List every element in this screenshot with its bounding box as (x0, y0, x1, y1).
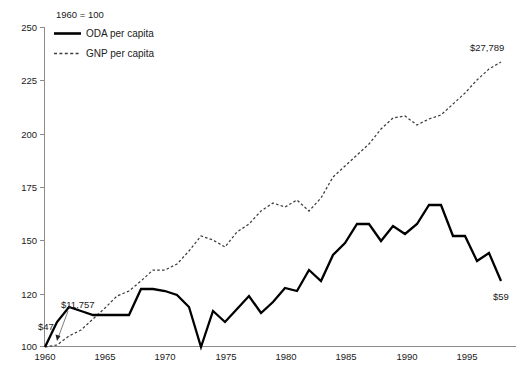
x-tick-label-1985: 1985 (335, 351, 356, 362)
x-tick-label-1980: 1980 (275, 351, 296, 362)
chart-legend: ODA per capita GNP per capita (54, 28, 155, 59)
legend-label-gnp: GNP per capita (86, 48, 155, 59)
series-line-oda (45, 205, 501, 347)
annotation-oda-end: $59 (493, 291, 509, 302)
gnp-start-leader-arrowhead (56, 335, 61, 342)
oda-end-label: $59 (493, 291, 509, 302)
gnp-start-label: $11,757 (61, 299, 95, 310)
gnp-end-label: $27,789 (470, 42, 504, 53)
line-chart: 250 225 200 175 150 120 100 1960 1965 19… (0, 0, 529, 379)
y-tick-label-200: 200 (21, 129, 37, 140)
x-tick-label-1970: 1970 (154, 351, 175, 362)
x-axis: 1960 1965 1970 1975 1980 1985 1990 1995 (34, 347, 516, 363)
x-tick-label-1965: 1965 (94, 351, 115, 362)
x-tick-label-1990: 1990 (396, 351, 417, 362)
annotation-gnp-end: $27,789 (470, 42, 504, 53)
chart-container: 250 225 200 175 150 120 100 1960 1965 19… (0, 0, 529, 379)
x-tick-label-1995: 1995 (456, 351, 477, 362)
y-tick-label-150: 150 (21, 235, 37, 246)
y-tick-label-250: 250 (21, 22, 37, 33)
y-tick-label-225: 225 (21, 75, 37, 86)
x-tick-label-1960: 1960 (34, 351, 55, 362)
annotation-oda-start: $47 (38, 321, 54, 332)
y-tick-label-120: 120 (21, 289, 37, 300)
x-tick-label-1975: 1975 (215, 351, 236, 362)
index-base-note: 1960 = 100 (56, 9, 104, 20)
y-tick-label-175: 175 (21, 182, 37, 193)
y-axis: 250 225 200 175 150 120 100 (21, 22, 44, 352)
annotation-gnp-start: $11,757 (56, 299, 95, 341)
oda-start-label: $47 (38, 321, 54, 332)
legend-label-oda: ODA per capita (86, 28, 154, 39)
